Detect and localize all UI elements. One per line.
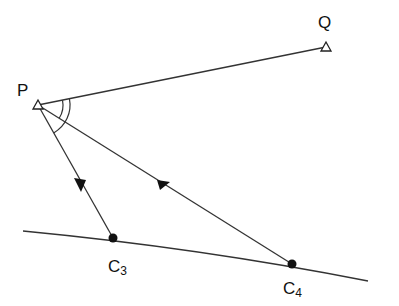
label-c4-main: C [283,279,295,298]
geometry-diagram: P Q C3 C4 [0,0,399,306]
point-c3-dot [109,234,118,243]
arrow-p-c3-icon [74,178,86,192]
arrow-p-c4-icon [157,180,170,190]
label-c3-sub: 3 [120,264,127,278]
label-c3: C3 [108,257,127,278]
label-c4-sub: 4 [295,286,302,300]
curve [23,231,368,281]
line-p-q [38,47,326,105]
point-q-marker-icon [321,42,331,51]
label-q: Q [318,13,331,32]
label-p: P [17,81,28,100]
line-p-c3 [38,105,113,238]
angle-arc-inner [59,100,63,118]
point-c4-dot [288,260,297,269]
label-c3-main: C [108,257,120,276]
label-c4: C4 [283,279,302,300]
